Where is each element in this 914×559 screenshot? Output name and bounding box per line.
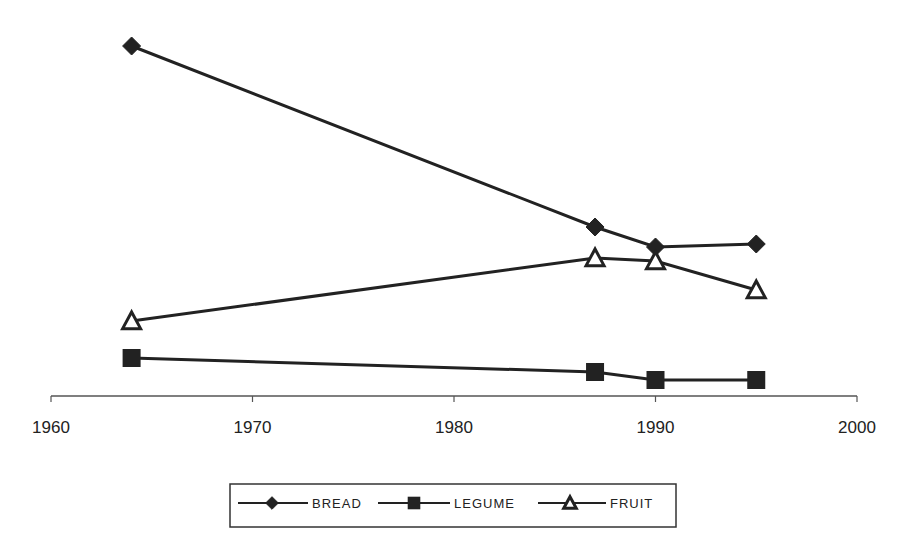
x-tick-label: 1980 [435,418,473,437]
diamond-marker-icon [123,37,141,55]
x-tick-label: 1990 [637,418,675,437]
series-bread [123,37,766,256]
x-tick-label: 1970 [234,418,272,437]
series-group [123,37,766,389]
legend-label: FRUIT [610,496,653,511]
diamond-marker-icon [747,235,765,253]
legend-label: LEGUME [454,496,515,511]
square-marker-icon [747,371,765,389]
x-axis-tick-labels: 19601970198019902000 [32,418,876,437]
series-line [132,46,757,247]
x-tick-label: 1960 [32,418,70,437]
square-marker-icon [586,363,604,381]
x-axis [51,396,857,402]
x-tick-label: 2000 [838,418,876,437]
series-legume [123,349,766,389]
legend: BREADLEGUMEFRUIT [230,484,676,527]
square-marker-icon [123,349,141,367]
legend-label: BREAD [312,496,362,511]
square-marker-icon [408,497,421,510]
series-fruit [123,249,766,329]
diamond-marker-icon [586,218,604,236]
line-chart: 19601970198019902000 BREADLEGUMEFRUIT [0,0,914,559]
square-marker-icon [647,371,665,389]
